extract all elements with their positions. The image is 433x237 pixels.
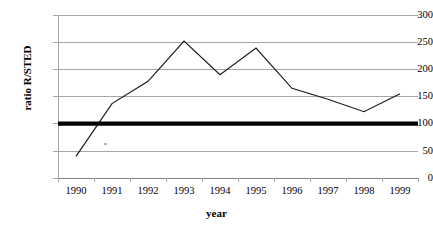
chart-container: 300 250 200 150 100 50 0 1990 1991 1992 … — [0, 0, 433, 237]
series-layer — [0, 0, 433, 237]
y-axis-title: ratio R/STED — [21, 18, 33, 138]
x-axis-title: year — [0, 207, 433, 219]
ratio-line — [76, 41, 400, 156]
